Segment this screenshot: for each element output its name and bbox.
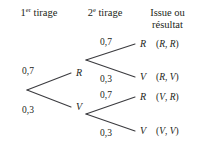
probability-label-level2-branch1-lower: 0,3: [100, 74, 112, 84]
bracket-close: ): [176, 126, 179, 136]
probability-tree-diagram: 1er tirage 2e tirage Issue ourésultat 0,…: [0, 0, 197, 150]
node-label-level2-V-2: V: [140, 126, 146, 136]
outcome-label-VR: (V, R): [156, 92, 179, 102]
outcome-label-RV: (R, V): [156, 72, 179, 82]
probability-label-level2-branch1-upper: 0,7: [100, 37, 112, 47]
node-label-level2-R-2: R: [140, 92, 146, 102]
outcome-label-VV: (V, V): [156, 126, 179, 136]
node-label-level1-R: R: [76, 68, 82, 78]
probability-label-level1-upper: 0,7: [22, 66, 34, 76]
node-label-level1-V: V: [76, 102, 82, 112]
node-label-level2-V-1: V: [140, 72, 146, 82]
probability-label-level2-branch2-upper: 0,7: [100, 90, 112, 100]
probability-label-level1-lower: 0,3: [22, 105, 34, 115]
bracket-close: ): [176, 39, 179, 49]
outcome-label-RR: (R, R): [156, 39, 179, 49]
node-label-level2-R-1: R: [140, 39, 146, 49]
bracket-close: ): [176, 92, 179, 102]
bracket-close: ): [176, 72, 179, 82]
probability-label-level2-branch2-lower: 0,3: [100, 128, 112, 138]
